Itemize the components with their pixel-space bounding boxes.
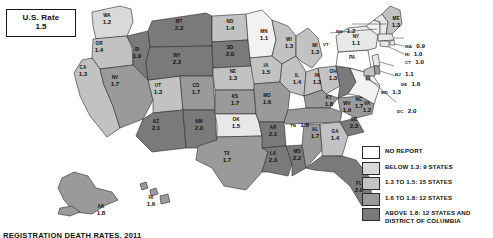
state-shape-hi-1 (140, 182, 148, 190)
legend-swatch-above-1-8 (362, 208, 380, 221)
state-shape-ne (213, 66, 256, 90)
us-rate-value: 1.5 (35, 23, 46, 32)
legend-label-above-1-8: ABOVE 1.8: 12 STATES AND DISTRICT OF COL… (385, 208, 489, 225)
state-shape-wa (92, 6, 133, 39)
state-shape-mn (246, 10, 276, 58)
leader-line-de (380, 71, 396, 76)
legend-item-below-1-3: BELOW 1.3: 9 STATES (362, 162, 490, 175)
state-shape-ar (259, 122, 286, 148)
legend-swatch-1-3-to-1-5 (362, 177, 380, 190)
legend-label-no-report: NO REPORT (385, 146, 423, 155)
legend-label-below-1-3: BELOW 1.3: 9 STATES (385, 162, 453, 171)
leader-line-ct (389, 47, 404, 54)
legend-label-1-3-to-1-5: 1.3 TO 1.5: 15 STATES (385, 177, 452, 186)
state-shape-ma (378, 34, 394, 41)
map-legend: NO REPORT BELOW 1.3: 9 STATES 1.3 TO 1.5… (362, 146, 490, 228)
legend-swatch-no-report (362, 146, 380, 159)
state-shape-hi-3 (160, 194, 170, 204)
state-shape-ct (380, 41, 389, 47)
leader-line-nj (380, 62, 394, 66)
state-shape-hi-2 (150, 188, 158, 196)
death-rate-map-figure: U.S. Rate 1.5 WA 1.2 OR 1.4 CA 1.3 ID 1.… (0, 0, 493, 238)
state-shape-tx (196, 136, 268, 190)
state-shape-sd (212, 40, 251, 68)
state-shape-mt (148, 13, 212, 47)
leader-line-ri (395, 44, 404, 46)
state-shape-nj (372, 54, 380, 66)
legend-item-1-6-to-1-8: 1.6 TO 1.8: 12 STATES (362, 193, 490, 206)
legend-swatch-1-6-to-1-8 (362, 193, 380, 206)
legend-item-no-report: NO REPORT (362, 146, 490, 159)
legend-swatch-below-1-3 (362, 162, 380, 175)
state-shape-mo (254, 82, 290, 122)
legend-item-above-1-8: ABOVE 1.8: 12 STATES AND DISTRICT OF COL… (362, 208, 490, 225)
state-shape-ut (148, 76, 183, 113)
state-shape-ok (215, 114, 262, 137)
state-shape-ri (390, 40, 395, 45)
state-shape-tn (284, 108, 342, 124)
state-shape-ks (215, 90, 256, 114)
legend-item-1-3-to-1-5: 1.3 TO 1.5: 15 STATES (362, 177, 490, 190)
state-shape-wy (146, 46, 213, 80)
legend-label-1-6-to-1-8: 1.6 TO 1.8: 12 STATES (385, 193, 452, 202)
us-rate-box: U.S. Rate 1.5 (6, 9, 76, 37)
state-shape-co (180, 76, 215, 110)
figure-caption: REGISTRATION DEATH RATES, 2011 (3, 231, 142, 238)
state-shape-or (92, 36, 133, 69)
state-shape-nd (212, 14, 248, 42)
state-shape-wi (272, 20, 296, 64)
